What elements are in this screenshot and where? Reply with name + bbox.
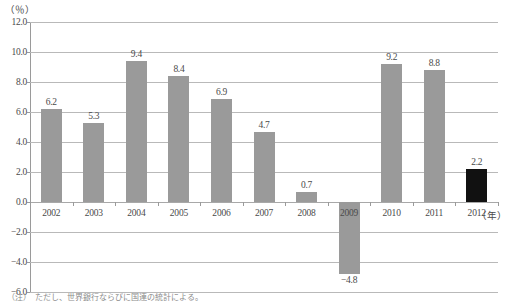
- bar: [424, 70, 445, 202]
- x-axis-tick-label: 2010: [370, 208, 414, 218]
- x-axis-tick-label: 2006: [199, 208, 243, 218]
- x-axis-tick-label: 2008: [285, 208, 329, 218]
- x-axis-tick-mark: [328, 202, 329, 206]
- y-axis-tick-label: 6.0: [16, 107, 27, 117]
- gridline: [30, 262, 498, 263]
- y-axis-tick-label: 0.0: [16, 197, 27, 207]
- x-axis-tick-label: 2002: [29, 208, 73, 218]
- bar-value-label: 5.3: [74, 111, 114, 121]
- x-axis-tick-mark: [115, 202, 116, 206]
- bar: [83, 123, 104, 203]
- plot-area: 12.010.08.06.04.02.00.0−2.0−4.0−6.0 6.25…: [30, 22, 498, 292]
- x-axis-tick-label: 2009: [327, 208, 371, 218]
- x-axis-tick-mark: [285, 202, 286, 206]
- bar-value-label: 9.2: [372, 52, 412, 62]
- y-axis-tick-mark: [27, 232, 30, 233]
- y-axis-tick-label: −2.0: [11, 227, 27, 237]
- x-axis-tick-mark: [73, 202, 74, 206]
- y-axis-tick-mark: [27, 52, 30, 53]
- y-axis-tick-mark: [27, 82, 30, 83]
- x-axis-tick-label: 2005: [157, 208, 201, 218]
- bar-value-label: 0.7: [287, 180, 327, 190]
- x-axis-unit-label: （年）: [477, 208, 507, 222]
- bar-value-label: 4.7: [244, 120, 284, 130]
- bar: [211, 99, 232, 203]
- bar-value-label: 8.4: [159, 64, 199, 74]
- x-axis-tick-mark: [413, 202, 414, 206]
- x-axis-tick-label: 2011: [412, 208, 456, 218]
- x-axis-tick-mark: [455, 202, 456, 206]
- y-axis-tick-mark: [27, 22, 30, 23]
- y-axis-tick-label: 10.0: [12, 47, 27, 57]
- x-axis-tick-label: 2003: [72, 208, 116, 218]
- bar: [168, 76, 189, 202]
- y-axis-tick-mark: [27, 262, 30, 263]
- bar-value-label: 2.2: [457, 157, 497, 167]
- bar-value-label: 9.4: [116, 49, 156, 59]
- x-axis-tick-mark: [243, 202, 244, 206]
- bar: [254, 132, 275, 203]
- x-axis-tick-mark: [200, 202, 201, 206]
- gridline: [30, 22, 498, 23]
- y-axis-tick-mark: [27, 172, 30, 173]
- y-axis-tick-label: 4.0: [16, 137, 27, 147]
- y-axis-line: [30, 22, 31, 292]
- gridline: [30, 232, 498, 233]
- y-axis-tick-label: 8.0: [16, 77, 27, 87]
- x-axis-tick-mark: [30, 202, 31, 206]
- bar-value-label: 8.8: [414, 58, 454, 68]
- gridline: [30, 52, 498, 53]
- bar-value-label: −4.8: [329, 275, 369, 285]
- y-axis-tick-label: 2.0: [16, 167, 27, 177]
- x-axis-tick-mark: [370, 202, 371, 206]
- bar: [381, 64, 402, 202]
- y-axis-tick-mark: [27, 142, 30, 143]
- bar: [126, 61, 147, 202]
- bar-value-label: 6.2: [31, 97, 71, 107]
- bar-value-label: 6.9: [201, 87, 241, 97]
- y-axis-tick-label: 12.0: [12, 17, 27, 27]
- y-axis-unit-label: （％）: [5, 2, 34, 16]
- bar: [41, 109, 62, 202]
- y-axis-tick-label: −4.0: [11, 257, 27, 267]
- x-axis-tick-label: 2004: [114, 208, 158, 218]
- bar: [296, 192, 317, 203]
- y-axis-tick-mark: [27, 112, 30, 113]
- gridline: [30, 202, 498, 203]
- bar-chart-figure: （％） 12.010.08.06.04.02.00.0−2.0−4.0−6.0 …: [0, 0, 509, 301]
- x-axis-tick-mark: [158, 202, 159, 206]
- x-axis-tick-label: 2007: [242, 208, 286, 218]
- chart-footnote: （注） ただし、世界銀行ならびに国連の統計による。: [7, 293, 307, 301]
- bar: [466, 169, 487, 202]
- x-axis-tick-mark: [498, 202, 499, 206]
